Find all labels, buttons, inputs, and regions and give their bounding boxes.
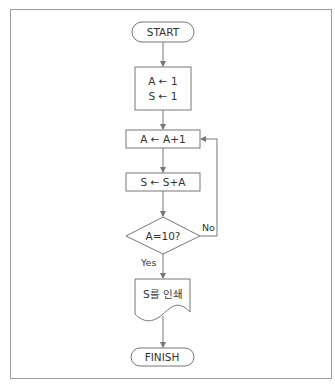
- flowchart: START A ← 1 S ← 1 A ← A+1 S ← S+A A=10? …: [0, 0, 335, 386]
- accumulate-process-box: S ← S+A: [126, 173, 200, 191]
- finish-label: FINISH: [145, 351, 180, 363]
- no-label: No: [202, 222, 215, 233]
- increment-process-box: A ← A+1: [126, 130, 200, 148]
- init-line-a: A ← 1: [148, 75, 177, 87]
- start-label: START: [147, 26, 180, 38]
- init-line-s: S ← 1: [149, 90, 178, 102]
- init-process-box: A ← 1 S ← 1: [135, 67, 191, 110]
- decision-diamond: A=10?: [126, 217, 200, 254]
- increment-label: A ← A+1: [140, 133, 185, 145]
- print-document-shape: S를 인쇄: [135, 279, 190, 321]
- accumulate-label: S ← S+A: [141, 176, 187, 188]
- decision-label: A=10?: [146, 230, 181, 242]
- yes-label: Yes: [140, 257, 156, 268]
- start-terminal: START: [132, 22, 194, 42]
- print-label: S를 인쇄: [143, 288, 183, 300]
- finish-terminal: FINISH: [131, 348, 194, 366]
